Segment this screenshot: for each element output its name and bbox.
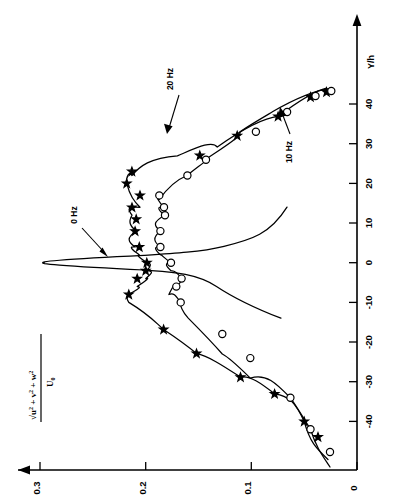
annotation-0hz-leader: [82, 228, 104, 252]
series-10hz: [155, 87, 335, 467]
series-0hz-line: [43, 207, 287, 318]
annotation-20hz: 20 Hz: [164, 68, 179, 134]
position-axis-title: Y/h: [366, 55, 376, 69]
position-axis-arrow: [353, 14, 362, 26]
position-tick-label--40: -40: [363, 415, 374, 429]
annotation-0hz: 0 Hz: [69, 206, 108, 257]
value-axis-title-denominator: U0: [45, 378, 56, 388]
value-axis-arrow: [18, 466, 30, 475]
annotation-20hz-arrowhead: [164, 124, 173, 134]
value-tick-label-0.2: 0.2: [137, 481, 148, 494]
annotation-20hz-label: 20 Hz: [165, 68, 175, 90]
position-tick-label-20: 20: [363, 178, 374, 189]
position-tick-label--30: -30: [363, 375, 374, 389]
series-20hz: [123, 88, 331, 460]
position-tick-label-10: 10: [363, 218, 374, 229]
position-tick-label-0: 0: [363, 260, 374, 265]
value-axis-title: √u2 + v2 + w2 U0: [28, 334, 56, 422]
position-tick-label-40: 40: [363, 99, 374, 110]
position-tick-label--10: -10: [363, 296, 374, 310]
value-tick-label-0.1: 0.1: [242, 481, 253, 495]
position-tick-label--20: -20: [363, 335, 374, 349]
value-tick-label-0.3: 0.3: [31, 481, 42, 494]
series-0hz: [43, 207, 287, 318]
annotation-10hz: 10 Hz: [278, 107, 294, 163]
series-20hz-line: [127, 88, 328, 459]
value-tick-label-0: 0: [348, 485, 359, 490]
annotation-20hz-leader: [169, 95, 179, 128]
value-axis-title-numerator: √u2 + v2 + w2: [28, 371, 38, 420]
series-10hz-markers: [156, 87, 335, 455]
value-axis: 0 0.1 0.2 0.3: [18, 462, 359, 495]
chart-figure: 0 0.1 0.2 0.3 √u2 + v2 + w2 U0 -40 -30 -…: [0, 0, 402, 503]
position-tick-label-30: 30: [363, 138, 374, 149]
annotation-0hz-label: 0 Hz: [69, 206, 79, 223]
chart-canvas: 0 0.1 0.2 0.3 √u2 + v2 + w2 U0 -40 -30 -…: [0, 0, 402, 503]
position-axis: -40 -30 -20 -10 0 10 20 30 40 Y/h: [349, 14, 376, 470]
annotation-10hz-label: 10 Hz: [284, 141, 294, 163]
